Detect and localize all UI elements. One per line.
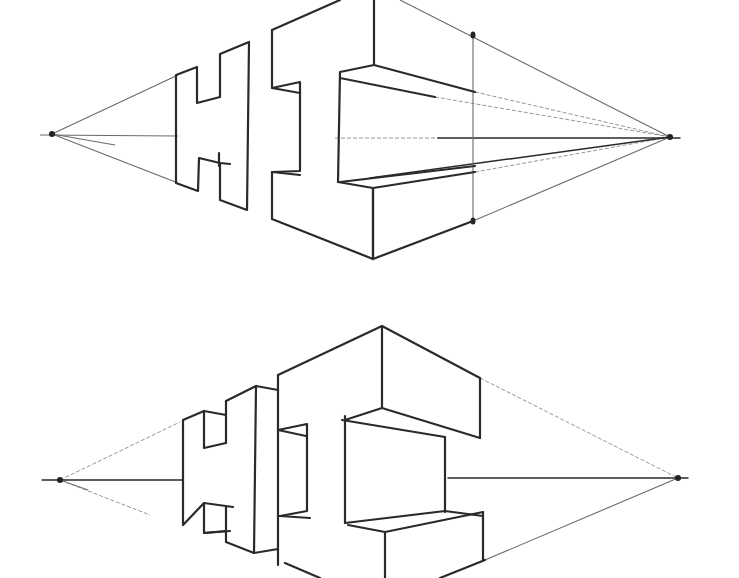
bottom-letter-i (278, 326, 485, 578)
bottom-left-vanishing-point (57, 477, 63, 483)
top-letter-i (272, 0, 475, 259)
top-left-vanishing-point (49, 131, 55, 137)
top-right-vanishing-point (667, 134, 673, 140)
bottom-letter-h (183, 375, 278, 565)
marker-dot-top (471, 32, 476, 39)
bottom-right-vanishing-point (675, 475, 681, 481)
bottom-perspective-drawing (42, 326, 688, 578)
top-perspective-drawing (40, 0, 680, 259)
top-letter-h (176, 42, 249, 210)
sketch-canvas (0, 0, 739, 578)
